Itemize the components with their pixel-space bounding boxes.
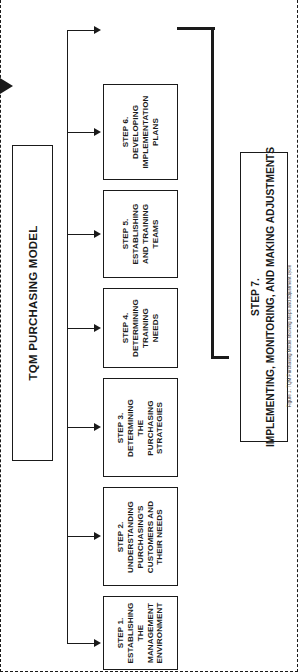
connector-spine-top-cap	[67, 30, 96, 31]
step-box-6: STEP 6.DEVELOPINGIMPLEMENTATIONPLANS	[103, 84, 178, 180]
arrowhead-step5-icon	[94, 230, 101, 238]
step-label-4: STEP 4.DETERMININGTRAININGNEEDS	[121, 299, 160, 357]
connector-spine	[67, 30, 68, 644]
diagram-title-box: TQM PURCHASING MODEL	[12, 145, 53, 461]
dashed-edge-left	[0, 0, 1, 672]
step-label-5: STEP 5.ESTABLISHINGAND TRAININGTEAMS	[121, 204, 160, 265]
step-box-3: STEP 3.DETERMININGTHEPURCHASINGSTRATEGIE…	[103, 378, 178, 477]
connector-arm-step4	[67, 328, 96, 329]
step-box-5: STEP 5.ESTABLISHINGAND TRAININGTEAMS	[103, 190, 178, 278]
arrowhead-step4-icon	[94, 324, 101, 332]
connector-arm-step6	[67, 132, 96, 133]
arrowhead-step1-icon	[94, 639, 101, 647]
connector-arm-step1	[67, 643, 96, 644]
arrowhead-step6-icon	[94, 128, 101, 136]
feedback-path-vertical	[211, 27, 214, 359]
connector-arm-step3	[67, 427, 96, 428]
dashed-placeholder-box	[0, 0, 83, 78]
arrowhead-placeholder-icon	[94, 26, 101, 34]
figure-caption-text: Figure 1. TQM Purchasing Model showing s…	[287, 265, 293, 407]
page-title: TQM PURCHASING MODEL	[25, 226, 39, 381]
feedback-path-bottom	[211, 356, 229, 359]
step-label-2: STEP 2.UNDERSTANDINGPURCHASING'SCUSTOMER…	[116, 500, 165, 572]
dashed-edge-right	[297, 0, 298, 672]
figure-caption: Figure 1. TQM Purchasing Model showing s…	[283, 0, 297, 672]
connector-arm-step5	[67, 234, 96, 235]
step-label-7: STEP 7.IMPLEMENTING, MONITORING, AND MAK…	[249, 147, 279, 447]
connector-arm-step2	[67, 536, 96, 537]
arrowhead-step7-icon	[0, 78, 13, 94]
step-box-2: STEP 2.UNDERSTANDINGPURCHASING'SCUSTOMER…	[103, 487, 178, 586]
step-label-6: STEP 6.DEVELOPINGIMPLEMENTATIONPLANS	[121, 95, 160, 168]
step-box-4: STEP 4.DETERMININGTRAININGNEEDS	[103, 288, 178, 368]
feedback-path-top	[177, 27, 215, 30]
step-label-3: STEP 3.DETERMININGTHEPURCHASINGSTRATEGIE…	[116, 399, 165, 457]
step-box-7: STEP 7.IMPLEMENTING, MONITORING, AND MAK…	[240, 152, 288, 442]
arrowhead-step2-icon	[94, 532, 101, 540]
step-label-1: STEP 1.ESTABLISHINGTHEMANAGEMENTENVIRONM…	[116, 603, 165, 664]
step-box-1: STEP 1.ESTABLISHINGTHEMANAGEMENTENVIRONM…	[103, 596, 178, 670]
arrowhead-step3-icon	[94, 423, 101, 431]
